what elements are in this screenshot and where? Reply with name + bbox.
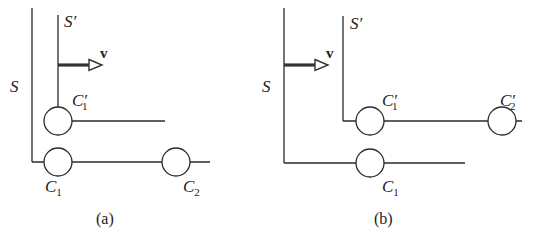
clock-c1-prime [356, 107, 384, 135]
caption-b: (b) [374, 210, 393, 228]
clock-c1 [356, 149, 384, 177]
velocity-arrow-icon [58, 60, 102, 71]
clock-c1-label: C1 [45, 177, 62, 198]
clock-c1-prime-label: C′1 [382, 91, 398, 112]
clock-c1 [44, 148, 72, 176]
relativity-clocks-figure: S S′ v C′1 C1 C2 (a) S S′ [0, 0, 537, 236]
clock-c2 [162, 148, 190, 176]
s-prime-frame-label: S′ [350, 14, 363, 33]
s-frame-label: S [262, 77, 271, 96]
velocity-label: v [100, 45, 108, 61]
caption-a: (a) [96, 210, 114, 228]
s-frame-label: S [10, 77, 19, 96]
clock-c2-prime-label: C′2 [500, 91, 516, 112]
clock-c1-label: C1 [382, 177, 399, 198]
clock-c1-prime-label: C′1 [72, 91, 88, 112]
velocity-label: v [326, 45, 334, 61]
velocity-arrow-icon [284, 60, 328, 71]
s-prime-frame-label: S′ [64, 12, 77, 31]
clock-c1-prime [44, 107, 72, 135]
panel-b: S S′ v C′1 C′2 C1 (b) [262, 8, 522, 228]
panel-a: S S′ v C′1 C1 C2 (a) [10, 8, 210, 228]
clock-c2-label: C2 [183, 177, 200, 198]
